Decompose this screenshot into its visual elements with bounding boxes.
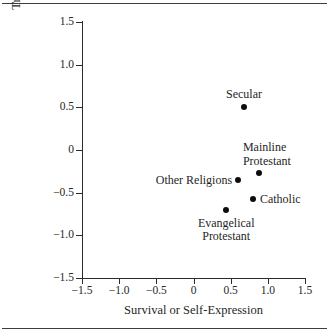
x-tick-label: 0 xyxy=(174,285,214,297)
x-tick-label: 0.5 xyxy=(211,285,251,297)
y-tick-mark xyxy=(76,22,82,23)
y-tick-label: −1.0 xyxy=(28,229,74,241)
y-tick-mark xyxy=(76,107,82,108)
x-axis-title: Survival or Self-Expression xyxy=(82,303,305,318)
scatter-point[interactable] xyxy=(223,207,229,213)
y-axis-title: Traditional or Secular-Rational xyxy=(8,0,24,60)
scatter-point[interactable] xyxy=(241,104,247,110)
y-tick-label: 0 xyxy=(28,144,74,156)
y-axis-title-wrapper: Traditional or Secular-Rational xyxy=(0,22,16,278)
scatter-point[interactable] xyxy=(235,177,241,183)
y-tick-label: −1.5 xyxy=(28,272,74,284)
figure-frame: −1.5−1.0−0.500.51.01.5 −1.5−1.0−0.500.51… xyxy=(0,0,329,334)
scatter-point-label: Other Religions xyxy=(102,174,232,188)
y-tick-mark xyxy=(76,193,82,194)
scatter-point-label: Evangelical Protestant xyxy=(166,217,286,244)
scatter-point-label: Mainline Protestant xyxy=(243,141,329,168)
y-tick-label: 0.5 xyxy=(28,101,74,113)
x-tick-label: −1.5 xyxy=(62,285,102,297)
y-tick-mark xyxy=(76,150,82,151)
x-tick-label: −1.0 xyxy=(99,285,139,297)
x-tick-label: −0.5 xyxy=(136,285,176,297)
top-divider-rule xyxy=(2,3,327,4)
y-tick-label: 1.0 xyxy=(28,59,74,71)
x-tick-label: 1.5 xyxy=(285,285,325,297)
y-tick-label: −0.5 xyxy=(28,187,74,199)
y-axis-line xyxy=(82,21,83,279)
x-tick-label: 1.0 xyxy=(248,285,288,297)
y-tick-mark xyxy=(76,235,82,236)
y-tick-mark xyxy=(76,65,82,66)
bottom-divider-rule xyxy=(2,328,327,329)
scatter-point[interactable] xyxy=(256,170,262,176)
scatter-point-label: Secular xyxy=(184,88,304,102)
y-tick-label: 1.5 xyxy=(28,16,74,28)
scatter-point[interactable] xyxy=(250,196,256,202)
scatter-point-label: Catholic xyxy=(260,193,329,207)
